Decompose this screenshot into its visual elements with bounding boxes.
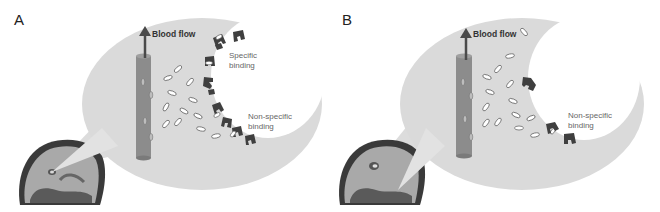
specific-binding-label-line2: binding: [229, 61, 255, 70]
specific-binding-label-line1: Specific: [229, 51, 257, 60]
blood-vessel: [456, 54, 473, 159]
panel-b: B Blood flow: [330, 0, 660, 212]
panel-b-diagram: Blood flow Non-specific binding: [330, 0, 660, 212]
blood-flow-label: Blood flow: [152, 29, 196, 39]
nonspecific-binding-label-line2: binding: [248, 122, 274, 131]
panel-a-diagram: Blood flow: [0, 0, 330, 212]
nonspecific-binding-label-line1: Non-specific: [248, 112, 292, 121]
nonspecific-binding-label-line1: Non-specific: [568, 111, 612, 120]
nonspecific-binding-label-line2: binding: [568, 121, 594, 130]
blood-vessel: [136, 54, 153, 161]
blood-flow-label: Blood flow: [473, 29, 517, 39]
panel-a: A: [0, 0, 330, 212]
